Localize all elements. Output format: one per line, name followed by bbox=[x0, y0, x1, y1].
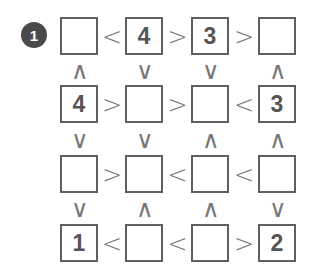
given-cell: 2 bbox=[258, 224, 296, 262]
inequality-sign: ∨ bbox=[67, 127, 93, 153]
inequality-sign: ∧ bbox=[132, 196, 158, 222]
empty-cell[interactable] bbox=[191, 224, 229, 262]
empty-cell[interactable] bbox=[60, 155, 98, 193]
inequality-sign: ∧ bbox=[265, 58, 291, 84]
inequality-sign: > bbox=[231, 24, 257, 50]
empty-cell[interactable] bbox=[258, 155, 296, 193]
inequality-sign: < bbox=[99, 24, 125, 50]
empty-cell[interactable] bbox=[191, 85, 229, 123]
inequality-sign: < bbox=[231, 162, 257, 188]
inequality-sign: ∧ bbox=[265, 127, 291, 153]
inequality-sign: < bbox=[231, 92, 257, 118]
inequality-sign: ∨ bbox=[132, 127, 158, 153]
inequality-sign: ∧ bbox=[67, 58, 93, 84]
inequality-sign: > bbox=[99, 162, 125, 188]
inequality-sign: ∨ bbox=[132, 58, 158, 84]
given-cell: 3 bbox=[258, 85, 296, 123]
given-cell: 4 bbox=[125, 17, 163, 55]
inequality-sign: ∨ bbox=[67, 196, 93, 222]
given-cell: 1 bbox=[60, 224, 98, 262]
empty-cell[interactable] bbox=[125, 155, 163, 193]
inequality-sign: ∧ bbox=[198, 196, 224, 222]
inequality-sign: < bbox=[165, 162, 191, 188]
puzzle-number-badge: 1 bbox=[21, 22, 47, 48]
inequality-sign: < bbox=[99, 231, 125, 257]
inequality-sign: > bbox=[231, 231, 257, 257]
inequality-sign: ∨ bbox=[265, 196, 291, 222]
inequality-sign: < bbox=[165, 231, 191, 257]
empty-cell[interactable] bbox=[60, 17, 98, 55]
inequality-sign: > bbox=[99, 92, 125, 118]
inequality-sign: > bbox=[165, 92, 191, 118]
given-cell: 4 bbox=[60, 85, 98, 123]
empty-cell[interactable] bbox=[258, 17, 296, 55]
inequality-sign: ∨ bbox=[198, 58, 224, 84]
inequality-sign: > bbox=[165, 24, 191, 50]
given-cell: 3 bbox=[191, 17, 229, 55]
empty-cell[interactable] bbox=[125, 85, 163, 123]
inequality-sign: ∧ bbox=[198, 127, 224, 153]
empty-cell[interactable] bbox=[125, 224, 163, 262]
empty-cell[interactable] bbox=[191, 155, 229, 193]
